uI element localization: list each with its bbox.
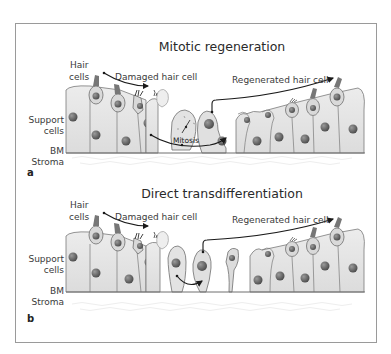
bm-label-b: BM — [24, 286, 64, 296]
regenerated-hair-cell-label-b: Regenerated hair cell — [232, 215, 329, 225]
panel-a-letter: a — [27, 167, 34, 178]
damaged-hair-cell-label-a: Damaged hair cell — [115, 72, 197, 82]
panel-a-title: Mitotic regeneration — [159, 39, 286, 54]
hair-cells-label-a-2: cells — [69, 72, 89, 82]
support-cells-label-b-2: cells — [24, 265, 64, 275]
mitosis-label: Mitosis — [173, 136, 199, 145]
support-cells-label-a-2: cells — [24, 126, 64, 136]
damaged-hair-cell-label-b: Damaged hair cell — [115, 212, 197, 222]
panel-a-graphic — [66, 72, 365, 165]
bm-label-a: BM — [24, 146, 64, 156]
panel-b-title: Direct transdifferentiation — [141, 186, 303, 201]
hair-cells-label-b: Hair — [70, 200, 88, 210]
support-cells-label-a: Support — [24, 115, 64, 125]
regenerated-hair-cell-label-a: Regenerated hair cell — [232, 75, 329, 85]
panel-b-letter: b — [27, 313, 34, 324]
panel-b-graphic — [66, 212, 365, 311]
hair-cells-label-a: Hair — [70, 60, 88, 70]
regeneration-figure: Mitotic regeneration Hair cells Damaged … — [0, 0, 391, 354]
hair-cells-label-b-2: cells — [69, 212, 89, 222]
stroma-label-a: Stroma — [24, 157, 64, 167]
support-cells-label-b: Support — [24, 254, 64, 264]
stroma-label-b: Stroma — [24, 297, 64, 307]
